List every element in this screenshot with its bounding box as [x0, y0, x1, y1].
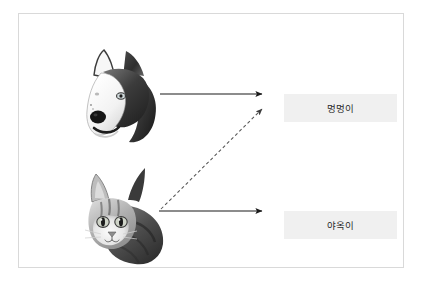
- diagram-canvas-frame: 멍멍이 야옥이: [18, 13, 404, 268]
- label-box-yaongi[interactable]: 야옥이: [284, 211, 397, 239]
- tabby-cat-photo: [75, 160, 171, 268]
- label-text-meongmeongi: 멍멍이: [327, 101, 355, 115]
- husky-dog-photo: [71, 42, 167, 150]
- dog-nose-highlight: [94, 114, 98, 117]
- cat-forehead-stripe: [101, 202, 102, 217]
- diagram-root: 멍멍이 야옥이: [0, 0, 423, 282]
- label-text-yaongi: 야옥이: [327, 218, 355, 232]
- cat-forehead-stripe: [109, 199, 110, 215]
- label-box-meongmeongi[interactable]: 멍멍이: [284, 94, 397, 122]
- dog-pupil-right: [119, 94, 122, 98]
- dog-whisker-dot: [92, 108, 94, 110]
- dog-nose: [90, 111, 106, 124]
- cat-eye-highlight: [118, 219, 120, 221]
- cat-eye-highlight: [100, 219, 102, 221]
- dog-eye-left: [95, 93, 99, 96]
- cat-forehead-stripe: [118, 200, 119, 216]
- dog-whisker-dot: [90, 104, 92, 106]
- cat-right-ear: [128, 168, 145, 202]
